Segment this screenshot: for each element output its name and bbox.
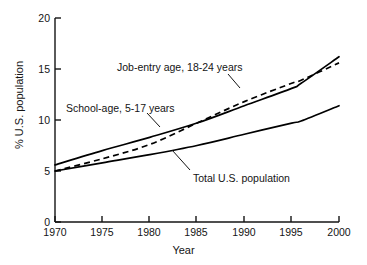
leader-line-job-entry	[228, 74, 240, 88]
chart-figure: 20 15 10 5 0 1970 1975 1980 1985 1990 19…	[0, 0, 367, 265]
x-tick-label-1975: 1975	[82, 227, 122, 238]
y-axis-ticks	[55, 18, 61, 222]
y-tick-label-5: 5	[24, 166, 50, 177]
annotation-school-age: School-age, 5-17 years	[66, 103, 175, 114]
x-tick-label-2000: 2000	[319, 227, 359, 238]
x-axis-ticks	[55, 216, 339, 222]
y-axis-title-wrapper: % U.S. population	[9, 35, 27, 175]
leader-line-total-population	[172, 150, 190, 170]
y-tick-label-20: 20	[24, 13, 50, 24]
annotation-job-entry-age: Job-entry age, 18-24 years	[117, 62, 243, 73]
leader-line-school-age	[147, 113, 160, 127]
x-tick-label-1995: 1995	[271, 227, 311, 238]
annotation-total-population: Total U.S. population	[193, 173, 290, 184]
x-tick-label-1990: 1990	[224, 227, 264, 238]
y-axis-title: % U.S. population	[13, 61, 25, 149]
y-tick-label-15: 15	[24, 64, 50, 75]
x-axis-title: Year	[0, 245, 367, 256]
x-tick-label-1980: 1980	[129, 227, 169, 238]
y-tick-label-10: 10	[24, 115, 50, 126]
x-tick-label-1970: 1970	[35, 227, 75, 238]
series-line-job-entry	[55, 63, 339, 171]
x-tick-label-1985: 1985	[176, 227, 216, 238]
series-line-total-population	[55, 106, 339, 171]
